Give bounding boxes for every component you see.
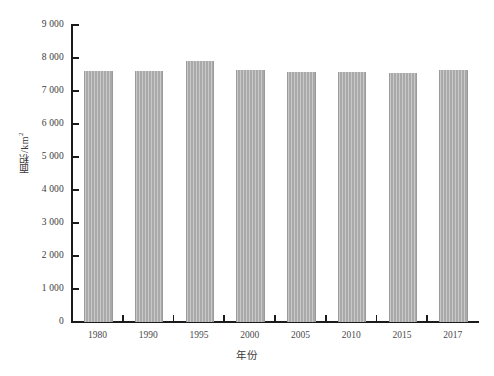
- y-axis-tick-label: 5 000: [8, 151, 64, 161]
- bar: [439, 70, 467, 322]
- y-axis-tick-label: 9 000: [8, 19, 64, 29]
- x-axis-tick-label: 1990: [123, 330, 173, 340]
- y-axis-tick-label: 8 000: [8, 52, 64, 62]
- bar: [236, 70, 264, 322]
- x-axis-title: 年份: [0, 347, 494, 362]
- y-axis-tick-label: 0: [8, 316, 64, 326]
- bar: [135, 71, 163, 322]
- bar: [287, 72, 315, 322]
- x-axis-tick-label: 2005: [275, 330, 325, 340]
- plot-area: [72, 25, 478, 322]
- y-axis-tick-label: 6 000: [8, 118, 64, 128]
- bar-chart: 面积/km2 01 0002 0003 0004 0005 0006 0007 …: [0, 0, 494, 376]
- x-axis-tick-label: 1995: [174, 330, 224, 340]
- x-axis-tick-label: 2010: [326, 330, 376, 340]
- bar: [84, 71, 112, 322]
- y-axis-tick-label: 7 000: [8, 85, 64, 95]
- bar: [338, 72, 366, 322]
- y-axis-title-exponent: 2: [17, 132, 25, 136]
- y-axis-tick-label: 4 000: [8, 184, 64, 194]
- bar: [186, 61, 214, 322]
- x-axis-tick-label: 1980: [72, 330, 122, 340]
- x-axis-tick-label: 2017: [428, 330, 478, 340]
- x-axis-tick-label: 2000: [225, 330, 275, 340]
- bar: [389, 73, 417, 322]
- x-axis-tick-label: 2015: [377, 330, 427, 340]
- y-axis-tick-label: 2 000: [8, 250, 64, 260]
- y-axis-tick-label: 3 000: [8, 217, 64, 227]
- y-axis-tick-label: 1 000: [8, 283, 64, 293]
